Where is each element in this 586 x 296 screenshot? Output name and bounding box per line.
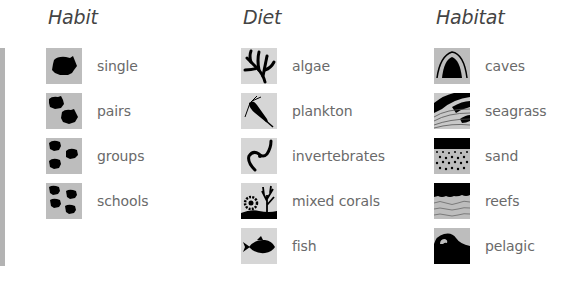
diet-item-fish: fish	[241, 228, 317, 264]
habit-item-pairs: pairs	[46, 93, 131, 129]
habitat-title: Habitat	[436, 6, 504, 28]
habitat-item-sand: sand	[434, 138, 518, 174]
fish-icon	[241, 228, 277, 264]
diet-label: fish	[292, 238, 317, 254]
habit-label: schools	[97, 193, 148, 209]
diet-item-algae: algae	[241, 48, 330, 84]
worm-icon	[241, 138, 277, 174]
habitat-label: sand	[485, 148, 518, 164]
single-fish-icon	[46, 48, 82, 84]
sand-icon	[434, 138, 470, 174]
diet-item-plankton: plankton	[241, 93, 352, 129]
plankton-icon	[241, 93, 277, 129]
side-bar	[0, 48, 5, 266]
fish-school-icon	[46, 183, 82, 219]
diet-item-mixed-corals: mixed corals	[241, 183, 380, 219]
habit-label: groups	[97, 148, 144, 164]
diet-label: invertebrates	[292, 148, 385, 164]
habit-title: Habit	[48, 6, 98, 28]
cave-icon	[434, 48, 470, 84]
habitat-label: pelagic	[485, 238, 535, 254]
diet-label: algae	[292, 58, 330, 74]
seagrass-icon	[434, 93, 470, 129]
habitat-label: caves	[485, 58, 525, 74]
reef-icon	[434, 183, 470, 219]
diet-title: Diet	[243, 6, 281, 28]
wave-icon	[434, 228, 470, 264]
diet-label: mixed corals	[292, 193, 380, 209]
habit-item-groups: groups	[46, 138, 144, 174]
algae-icon	[241, 48, 277, 84]
habit-item-schools: schools	[46, 183, 148, 219]
coral-icon	[241, 183, 277, 219]
fish-pair-icon	[46, 93, 82, 129]
habit-label: pairs	[97, 103, 131, 119]
habitat-item-caves: caves	[434, 48, 525, 84]
habitat-item-reefs: reefs	[434, 183, 519, 219]
habit-item-single: single	[46, 48, 138, 84]
diet-item-invertebrates: invertebrates	[241, 138, 385, 174]
habit-label: single	[97, 58, 138, 74]
diet-label: plankton	[292, 103, 352, 119]
habitat-label: reefs	[485, 193, 519, 209]
habitat-item-pelagic: pelagic	[434, 228, 535, 264]
habitat-item-seagrass: seagrass	[434, 93, 547, 129]
habitat-label: seagrass	[485, 103, 547, 119]
fish-group-icon	[46, 138, 82, 174]
